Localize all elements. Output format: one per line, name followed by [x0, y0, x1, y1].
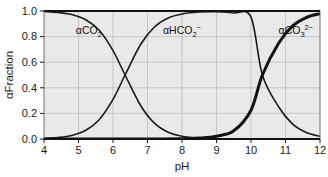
x-tick-label: 9 — [213, 144, 219, 156]
x-tick-label: 11 — [280, 144, 291, 156]
chart-svg: 456789101112 0.00.20.40.60.81.0 pH αFrac… — [0, 0, 328, 177]
x-tick-label: 12 — [314, 144, 326, 156]
x-tick-label: 10 — [245, 144, 257, 156]
x-tick-label: 4 — [41, 144, 47, 156]
carbonate-speciation-chart: 456789101112 0.00.20.40.60.81.0 pH αFrac… — [0, 0, 328, 177]
y-tick-label: 0.4 — [22, 82, 37, 94]
y-axis-title: αFraction — [3, 51, 15, 99]
x-tick-label: 8 — [179, 144, 185, 156]
y-tick-label: 0.6 — [22, 56, 37, 68]
x-tick-label: 7 — [144, 144, 150, 156]
y-tick-label: 1.0 — [22, 5, 37, 17]
y-tick-label: 0.0 — [22, 133, 37, 145]
y-tick-label: 0.2 — [22, 107, 37, 119]
x-tick-label: 6 — [110, 144, 116, 156]
y-tick-label: 0.8 — [22, 30, 37, 42]
figure-caption-partial — [0, 169, 328, 177]
x-tick-label: 5 — [75, 144, 81, 156]
